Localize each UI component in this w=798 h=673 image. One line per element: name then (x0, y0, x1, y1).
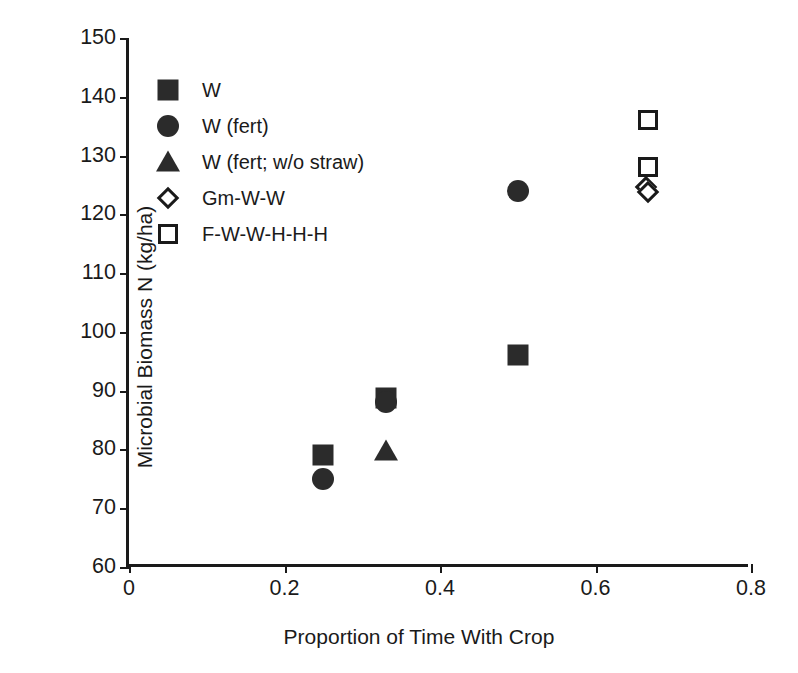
data-point-filled-circle (507, 180, 529, 202)
legend-item: W (150, 72, 480, 108)
filled-triangle-icon (156, 150, 180, 171)
y-tick-mark (120, 508, 129, 510)
legend: WW (fert)W (fert; w/o straw)Gm-W-WF-W-W-… (150, 72, 480, 252)
y-tick-label: 140 (80, 86, 116, 108)
y-tick-mark (120, 332, 129, 334)
y-tick-mark (120, 97, 129, 99)
data-point-filled-circle (312, 468, 334, 490)
x-tick-mark (596, 564, 598, 573)
x-axis-title: Proportion of Time With Crop (0, 625, 798, 649)
y-tick-label: 100 (80, 321, 116, 343)
legend-item: Gm-W-W (150, 180, 480, 216)
y-tick-mark (120, 273, 129, 275)
x-tick-mark (440, 564, 442, 573)
scatter-plot-figure: Microbial Biomass N (kg/ha) 607080901001… (0, 0, 798, 673)
y-tick-label: 150 (80, 27, 116, 49)
legend-item-label: W (fert; w/o straw) (202, 151, 364, 174)
y-tick-label: 60 (92, 556, 116, 578)
x-tick-label: 0.2 (270, 578, 300, 600)
legend-item-label: F-W-W-H-H-H (202, 223, 328, 246)
y-tick-mark (120, 156, 129, 158)
y-tick-mark (120, 391, 129, 393)
y-tick-label: 70 (92, 497, 116, 519)
y-tick-label: 90 (92, 380, 116, 402)
data-point-filled-square (507, 345, 528, 366)
legend-item: F-W-W-H-H-H (150, 216, 480, 252)
legend-item: W (fert; w/o straw) (150, 144, 480, 180)
legend-item: W (fert) (150, 108, 480, 144)
open-diamond-icon (157, 187, 180, 210)
y-tick-label: 120 (80, 204, 116, 226)
x-tick-mark (285, 564, 287, 573)
y-tick-label: 80 (92, 439, 116, 461)
filled-square-icon (158, 80, 179, 101)
x-axis-title-text: Proportion of Time With Crop (284, 625, 555, 648)
y-tick-label: 130 (80, 145, 116, 167)
x-tick-label: 0 (123, 578, 135, 600)
x-tick-label: 0.6 (581, 578, 611, 600)
x-tick-label: 0.4 (425, 578, 455, 600)
data-point-filled-square (313, 445, 334, 466)
legend-item-label: W (fert) (202, 115, 269, 138)
x-tick-mark (751, 564, 753, 573)
x-tick-mark (129, 564, 131, 573)
y-tick-mark (120, 449, 129, 451)
data-point-filled-triangle (374, 439, 398, 460)
legend-item-label: Gm-W-W (202, 187, 285, 210)
data-point-filled-circle (375, 391, 397, 413)
y-tick-label: 110 (82, 262, 116, 284)
y-tick-mark (120, 38, 129, 40)
x-tick-label: 0.8 (736, 578, 766, 600)
filled-circle-icon (157, 115, 179, 137)
y-tick-mark (120, 567, 129, 569)
data-point-open-square (638, 157, 658, 177)
data-point-open-square (638, 110, 658, 130)
y-tick-mark (120, 214, 129, 216)
legend-item-label: W (202, 79, 221, 102)
open-square-icon (158, 224, 178, 244)
